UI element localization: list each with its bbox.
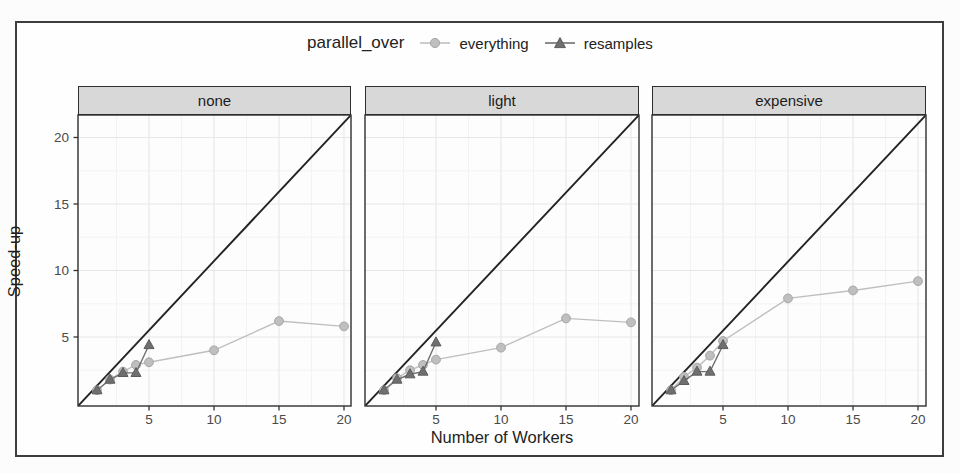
x-tick-label: 10 (780, 412, 795, 427)
x-tick-label: 10 (206, 412, 221, 427)
facet-panel-light: 5101520 (365, 115, 639, 427)
data-point (497, 343, 506, 352)
x-tick-label: 5 (432, 412, 440, 427)
data-point (706, 351, 715, 360)
y-tick-label: 5 (61, 330, 69, 345)
x-tick-label: 5 (145, 412, 153, 427)
y-tick-label: 10 (54, 263, 69, 278)
x-tick-label: 10 (493, 412, 508, 427)
data-point (562, 314, 571, 323)
data-point (784, 294, 793, 303)
x-tick-label: 15 (271, 412, 286, 427)
x-tick-label: 20 (336, 412, 351, 427)
faceted-line-chart: 5101520510152051015205101520 (0, 0, 960, 473)
data-point (627, 318, 636, 327)
data-point (432, 355, 441, 364)
data-point (849, 286, 858, 295)
y-tick-label: 20 (54, 130, 69, 145)
facet-panel-expensive: 5101520 (652, 115, 926, 427)
x-tick-label: 20 (910, 412, 925, 427)
x-tick-label: 5 (719, 412, 727, 427)
x-tick-label: 15 (558, 412, 573, 427)
data-point (145, 358, 154, 367)
x-tick-label: 15 (845, 412, 860, 427)
y-axis-title: Speed-up (5, 152, 24, 372)
facet-panel-none: 51015205101520 (54, 115, 352, 427)
data-point (914, 277, 923, 286)
x-axis-title: Number of Workers (78, 428, 926, 447)
data-point (275, 317, 284, 326)
data-point (210, 346, 219, 355)
x-tick-label: 20 (623, 412, 638, 427)
y-tick-label: 15 (54, 197, 69, 212)
data-point (340, 322, 349, 331)
